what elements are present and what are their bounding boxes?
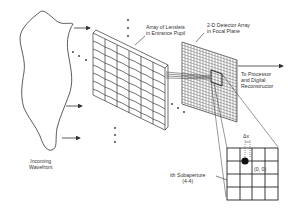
delta-x-label: Δx: [243, 133, 249, 139]
subaperture-pointer: [216, 176, 227, 180]
focal-spot: [241, 157, 248, 164]
wavefront-shape: [20, 11, 73, 150]
label-line: in Focal Plane: [207, 28, 250, 34]
label-line: Reconstructor: [241, 83, 273, 89]
lenslet-array-label: Array of Lenslets in Entrance Pupil: [146, 24, 185, 36]
wavefront-label: Incoming Wavefront: [29, 158, 52, 170]
origin-label: (0, 0): [254, 166, 266, 172]
lenslet-pointer: [135, 36, 145, 45]
subaperture-inset-grid: [227, 148, 278, 200]
lenslet-array: [93, 30, 168, 130]
label-line: in Entrance Pupil: [146, 30, 185, 36]
label-line: Wavefront: [29, 164, 52, 170]
detector-array-label: 2-D Detector Array in Focal Plane: [207, 22, 250, 34]
delta-x-marker: [245, 140, 250, 157]
detector-pointer: [196, 33, 204, 42]
label-line: (4-4): [170, 178, 205, 184]
subaperture-label: ith Subaperture (4-4): [170, 172, 205, 184]
processor-label: To Processor and Digital Reconstructor: [241, 71, 273, 89]
shack-hartmann-diagram: Array of Lenslets in Entrance Pupil 2-D …: [0, 0, 293, 212]
